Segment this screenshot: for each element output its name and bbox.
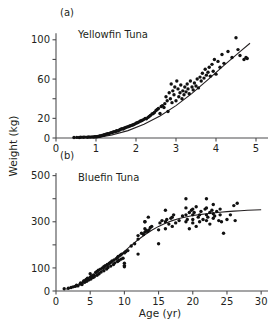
data-point [246, 57, 249, 60]
data-point [136, 234, 139, 237]
data-point [218, 207, 221, 210]
data-point [184, 197, 187, 200]
panel-a-y-tick-label: 100 [31, 34, 50, 45]
data-point [136, 252, 139, 255]
data-point [198, 75, 201, 78]
panel-b-x-tick-label: 25 [221, 296, 234, 307]
panel-a-scatter-points [72, 36, 249, 139]
data-point [191, 218, 194, 221]
data-point [166, 99, 169, 102]
data-point [216, 60, 219, 63]
panel-a-x-tick-label: 2 [133, 143, 139, 154]
data-point [205, 206, 208, 209]
data-point [232, 204, 235, 207]
data-point [174, 221, 177, 224]
data-point [199, 210, 202, 213]
data-point [130, 244, 133, 247]
data-point [197, 86, 200, 89]
data-point [150, 225, 153, 228]
data-point [123, 262, 126, 265]
panel-b-x-tick-label: 0 [53, 296, 59, 307]
data-point [206, 71, 209, 74]
data-point [169, 97, 172, 100]
data-point [170, 82, 173, 85]
data-point [225, 218, 228, 221]
data-point [220, 53, 223, 56]
data-point [164, 209, 167, 212]
data-point [213, 214, 216, 217]
data-point [196, 77, 199, 80]
data-point [186, 82, 189, 85]
data-point [209, 74, 212, 77]
data-point [220, 220, 223, 223]
data-point [206, 215, 209, 218]
data-point [201, 71, 204, 74]
data-point [222, 232, 225, 235]
data-point [210, 209, 213, 212]
data-point [210, 63, 213, 66]
data-point [164, 95, 167, 98]
data-point [167, 222, 170, 225]
data-point [157, 107, 160, 110]
panel-b-group: 0100300500051015202530(b)Bluefin Tuna [31, 150, 268, 307]
data-point [213, 58, 216, 61]
data-point [190, 85, 193, 88]
data-point [121, 257, 124, 260]
data-point [143, 220, 146, 223]
panel-a-panel-tag: (a) [60, 7, 74, 18]
panel-b-y-tick-label: 300 [31, 216, 50, 227]
data-point [163, 102, 166, 105]
data-point [202, 76, 205, 79]
data-point [215, 210, 218, 213]
data-point [208, 222, 211, 225]
data-point [191, 221, 194, 224]
data-point [170, 101, 173, 104]
panel-a-y-tick-label: 0 [44, 133, 50, 144]
data-point [229, 213, 232, 216]
data-point [184, 90, 187, 93]
data-point [160, 219, 163, 222]
data-point [171, 89, 174, 92]
data-point [192, 211, 195, 214]
panel-a-x-tick-label: 0 [53, 143, 59, 154]
data-point [205, 73, 208, 76]
data-point [165, 218, 168, 221]
data-point [193, 81, 196, 84]
panel-a-y-tick-label: 20 [37, 113, 50, 124]
data-point [205, 197, 208, 200]
data-point [191, 207, 194, 210]
data-point [172, 93, 175, 96]
data-point [168, 91, 171, 94]
x-axis-label: Age (yr) [60, 307, 260, 319]
panel-b-y-tick-label: 0 [44, 286, 50, 297]
data-point [175, 79, 178, 82]
data-point [226, 50, 229, 53]
data-point [218, 66, 221, 69]
data-point [173, 85, 176, 88]
data-point [236, 48, 239, 51]
data-point [181, 89, 184, 92]
data-point [198, 213, 201, 216]
panel-b-x-tick-label: 10 [118, 296, 131, 307]
data-point [186, 87, 189, 90]
panel-a-y-tick-label: 60 [37, 74, 50, 85]
panel-b-scatter-points [63, 197, 239, 290]
data-point [182, 93, 185, 96]
panel-b-x-tick-label: 5 [87, 296, 93, 307]
data-point [177, 95, 180, 98]
panel-a-x-tick-label: 4 [213, 143, 219, 154]
data-point [179, 83, 182, 86]
tuna-growth-figure: Weight (kg) Age (yr) 02060100012345(a)Ye… [0, 0, 277, 325]
data-point [183, 85, 186, 88]
data-point [200, 79, 203, 82]
data-point [186, 218, 189, 221]
panel-b-y-tick-label: 100 [31, 263, 50, 274]
data-point [198, 220, 201, 223]
panel-b-x-tick-label: 20 [186, 296, 199, 307]
data-point [212, 70, 215, 73]
data-point [230, 56, 233, 59]
data-point [147, 215, 150, 218]
data-point [214, 72, 217, 75]
data-point [166, 110, 169, 113]
data-point [158, 112, 161, 115]
